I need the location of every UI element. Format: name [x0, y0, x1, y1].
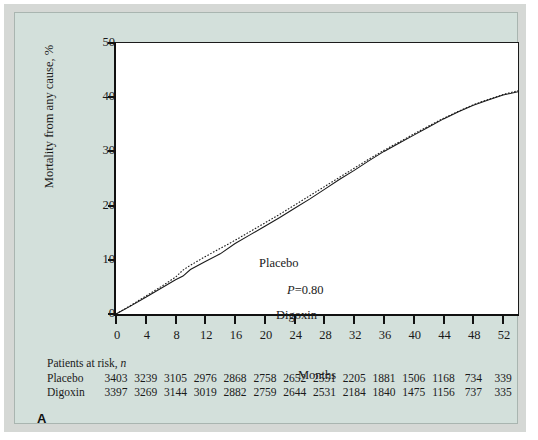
figure-root: Mortality from any cause, % 01020304050 … [0, 0, 538, 440]
pvalue-value: =0.80 [295, 283, 324, 297]
y-tick-label: 20 [81, 199, 115, 212]
x-tick-mark [175, 316, 177, 324]
plot-area: Placebo Digoxin [116, 43, 518, 314]
y-tick: 20 [67, 206, 115, 207]
x-tick-mark [323, 316, 325, 324]
x-tick-mark [264, 316, 266, 324]
x-tick-label: 52 [487, 329, 521, 342]
x-tick-mark [145, 316, 147, 324]
pvalue-symbol: P [287, 283, 295, 297]
x-tick-mark [443, 316, 445, 324]
y-tick-label: 50 [81, 36, 115, 49]
x-tick-mark [204, 316, 206, 324]
risk-table-cell: 339 [483, 372, 523, 384]
plot-frame-right [518, 42, 519, 314]
x-tick-mark [294, 316, 296, 324]
survival-curves [116, 43, 518, 314]
y-tick-label: 0 [81, 307, 115, 320]
x-tick-mark [353, 316, 355, 324]
panel-letter: A [37, 411, 46, 426]
x-tick-mark [472, 316, 474, 324]
y-tick-label: 40 [81, 90, 115, 103]
y-tick: 50 [67, 43, 115, 44]
y-axis-label: Mortality from any cause, % [42, 17, 57, 217]
y-tick: 0 [67, 314, 115, 315]
curve-label-placebo: Placebo [259, 256, 299, 271]
y-tick-label: 30 [81, 144, 115, 157]
x-tick-mark [383, 316, 385, 324]
risk-table-title-text: Patients at risk, [47, 357, 120, 369]
risk-table-title: Patients at risk, n [47, 357, 126, 369]
y-tick-label: 10 [81, 253, 115, 266]
figure-panel: Mortality from any cause, % 01020304050 … [14, 12, 518, 424]
x-tick-mark [234, 316, 236, 324]
risk-table-title-italic: n [120, 357, 126, 369]
y-tick: 40 [67, 97, 115, 98]
y-tick: 10 [67, 260, 115, 261]
pvalue-annotation: P=0.80 [287, 283, 324, 298]
x-tick-mark [115, 316, 117, 324]
curve-placebo [116, 91, 518, 314]
curve-digoxin [116, 92, 518, 314]
y-tick: 30 [67, 151, 115, 152]
risk-table-cell: 335 [483, 386, 523, 398]
x-tick-mark [502, 316, 504, 324]
curve-label-digoxin: Digoxin [276, 308, 317, 323]
x-tick-mark [413, 316, 415, 324]
